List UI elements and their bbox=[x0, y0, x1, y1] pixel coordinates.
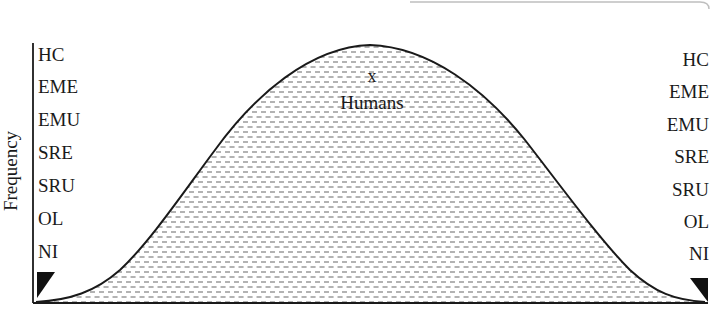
peak-marker: x bbox=[352, 66, 392, 87]
peak-label-humans: Humans bbox=[322, 92, 422, 114]
left-scale-label-sru: SRU bbox=[38, 175, 75, 197]
left-scale-label-hc: HC bbox=[38, 44, 64, 66]
left-scale-label-ol: OL bbox=[38, 208, 63, 230]
right-triangle-marker bbox=[690, 278, 708, 302]
left-scale-label-sre: SRE bbox=[38, 142, 73, 164]
right-scale-label-ni: NI bbox=[689, 243, 709, 265]
right-scale-label-hc: HC bbox=[683, 49, 709, 71]
right-scale-label-eme: EME bbox=[669, 81, 709, 103]
right-scale-label-sre: SRE bbox=[674, 146, 709, 168]
right-scale-label-ol: OL bbox=[684, 211, 709, 233]
bell-curve-graphic bbox=[0, 0, 711, 319]
right-scale-label-sru: SRU bbox=[672, 179, 709, 201]
left-triangle-marker bbox=[37, 272, 55, 298]
left-scale-label-emu: EMU bbox=[38, 109, 80, 131]
distribution-figure: Frequency HC EME EMU SRE SRU OL NI HC EM… bbox=[0, 0, 711, 319]
right-scale-label-emu: EMU bbox=[667, 114, 709, 136]
left-scale-label-ni: NI bbox=[38, 241, 58, 263]
y-axis-label: Frequency bbox=[0, 121, 22, 221]
left-scale-label-eme: EME bbox=[38, 76, 78, 98]
scan-artifact bbox=[410, 2, 709, 9]
